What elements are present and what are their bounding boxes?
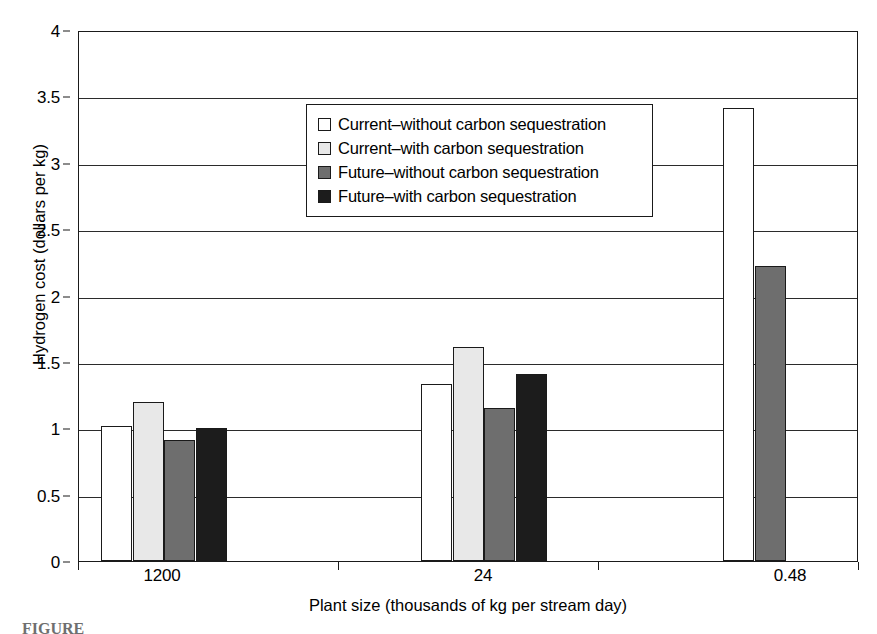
- x-tick-label: 1200: [143, 566, 180, 586]
- bar: [755, 266, 786, 561]
- legend-swatch-icon: [318, 142, 331, 155]
- y-tick-label: 2: [51, 288, 60, 305]
- x-tick-mark: [598, 562, 599, 570]
- y-tick-mark: [63, 429, 70, 430]
- x-axis-tick-labels: 1200240.48: [78, 566, 858, 592]
- bar: [164, 440, 195, 561]
- gridline: [79, 98, 857, 99]
- y-tick-label: 0.5: [37, 487, 60, 504]
- x-tick-label: 24: [474, 566, 493, 586]
- figure-caption: FIGURE: [22, 620, 84, 634]
- bar: [421, 384, 452, 561]
- bar: [516, 374, 547, 561]
- y-tick-mark: [63, 562, 70, 563]
- y-tick-mark: [63, 362, 70, 363]
- legend-swatch-icon: [318, 190, 331, 203]
- legend-label: Current–without carbon sequestration: [338, 115, 606, 133]
- x-axis-title: Plant size (thousands of kg per stream d…: [78, 596, 858, 615]
- bar: [453, 347, 484, 561]
- y-tick-label: 0: [51, 554, 60, 571]
- y-tick-mark: [63, 163, 70, 164]
- bar: [484, 408, 515, 561]
- y-tick-label: 1: [51, 421, 60, 438]
- figure-container: Hydrogen cost (dollars per kg) 00.511.52…: [0, 0, 877, 634]
- y-tick-mark: [63, 31, 70, 32]
- y-tick-mark: [63, 296, 70, 297]
- bar: [101, 426, 132, 561]
- legend-item: Future–without carbon sequestration: [318, 160, 642, 184]
- legend-label: Current–with carbon sequestration: [338, 139, 584, 157]
- x-tick-mark: [858, 562, 859, 570]
- legend-item: Current–with carbon sequestration: [318, 136, 642, 160]
- x-tick-mark: [338, 562, 339, 570]
- x-tick-label: 0.48: [774, 566, 806, 586]
- y-tick-label: 2.5: [37, 222, 60, 239]
- plot-area: Current–without carbon sequestrationCurr…: [78, 31, 858, 562]
- bar: [196, 428, 227, 561]
- y-axis-tick-labels: 00.511.522.533.54: [0, 31, 70, 562]
- x-tick-mark: [78, 562, 79, 570]
- legend-item: Future–with carbon sequestration: [318, 184, 642, 208]
- y-tick-mark: [63, 230, 70, 231]
- y-tick-label: 4: [51, 23, 60, 40]
- legend-label: Future–with carbon sequestration: [338, 187, 577, 205]
- y-tick-label: 3: [51, 155, 60, 172]
- chart-legend: Current–without carbon sequestrationCurr…: [306, 104, 653, 217]
- y-tick-mark: [63, 97, 70, 98]
- legend-swatch-icon: [318, 166, 331, 179]
- legend-item: Current–without carbon sequestration: [318, 112, 642, 136]
- y-tick-label: 1.5: [37, 354, 60, 371]
- bar: [723, 108, 754, 561]
- legend-swatch-icon: [318, 118, 331, 131]
- y-tick-mark: [63, 495, 70, 496]
- bar: [133, 402, 164, 561]
- y-tick-label: 3.5: [37, 89, 60, 106]
- legend-label: Future–without carbon sequestration: [338, 163, 599, 181]
